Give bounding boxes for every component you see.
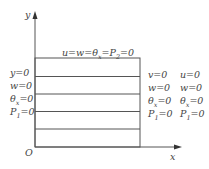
top-boundary-condition: u=w=θx=P2=0 <box>62 48 134 60</box>
left-bc-3: θx=0 <box>10 94 33 106</box>
tb-part: =0 <box>120 47 134 58</box>
right-bc2-1: u=0 <box>180 70 200 80</box>
right-bc2-2: w=0 <box>180 83 202 93</box>
y-axis-arrow-icon <box>33 11 38 19</box>
y-axis-label: y <box>25 10 30 20</box>
x-axis-arrow-icon <box>174 145 182 150</box>
left-bc-4: P1=0 <box>10 107 35 119</box>
plate-rectangle <box>35 58 140 147</box>
left-bc-2: w=0 <box>10 81 32 91</box>
right-bc2-3: θx=0 <box>180 96 203 108</box>
right-bc1-4: P1=0 <box>148 109 173 121</box>
tb-part: u=w=θ <box>62 47 98 58</box>
origin-label: O <box>25 148 33 158</box>
right-bc1-1: v=0 <box>148 70 167 80</box>
right-bc1-2: w=0 <box>148 83 170 93</box>
right-bc1-3: θx=0 <box>148 96 171 108</box>
left-bc-1: y=0 <box>10 68 29 78</box>
right-bc2-4: P1=0 <box>180 109 205 121</box>
x-axis-label: x <box>170 152 175 162</box>
tb-part: =P <box>102 47 116 58</box>
